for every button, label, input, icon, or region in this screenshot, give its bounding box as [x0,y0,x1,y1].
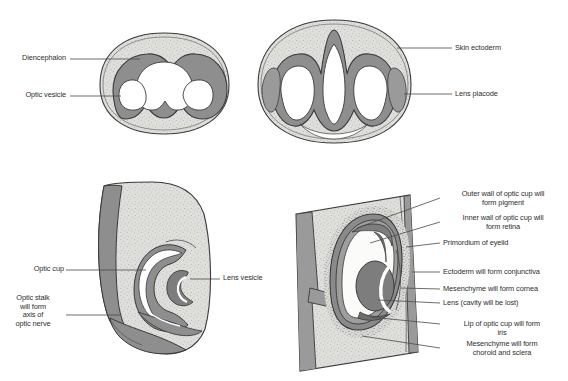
optic-cavity-left-p2 [281,66,314,120]
label-skin-ectoderm: Skin ectoderm [455,44,565,53]
label-lens-placode: Lens placode [455,90,565,99]
label-lens-cavity: Lens (cavity will be lost) [443,299,568,308]
optic-cavity-right-p2 [354,66,387,120]
label-diencephalon: Diencephalon [6,54,66,63]
label-ectoderm-conjunctiva: Ectoderm will form conjunctiva [443,268,568,277]
panel-optic-vesicle [100,33,229,134]
panel-mature-eye [296,195,420,371]
label-optic-stalk: Optic stalk will form axis of optic nerv… [2,294,64,328]
label-mesenchyme-choroid-sclera: Mesenchyme will form choroid and sclera [443,340,561,357]
label-optic-vesicle: Optic vesicle [6,91,66,100]
label-mesenchyme-cornea: Mesenchyme will form cornea [443,285,568,294]
label-lens-vesicle: Lens vesicle [223,274,303,283]
label-optic-cup: Optic cup [4,265,64,274]
label-lip-optic-cup-iris: Lip of optic cup will form iris [443,320,561,337]
panel-optic-cup [99,182,211,354]
label-outer-wall-pigment: Outer wall of optic cup will form pigmen… [442,190,564,207]
label-primordium-eyelid: Primordium of eyelid [443,239,565,248]
optic-vesicle-right [183,80,213,110]
panel-lens-placode [258,20,411,143]
optic-vesicle-left [119,80,146,110]
label-inner-wall-retina: Inner wall of optic cup will form retina [442,214,564,231]
